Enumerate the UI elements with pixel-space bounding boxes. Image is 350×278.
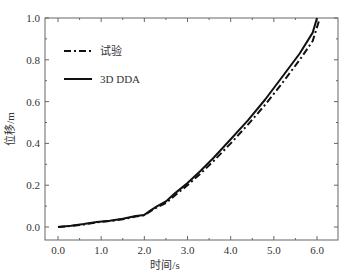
x-tick-label: 0.0 bbox=[51, 244, 65, 256]
legend-label-experiment: 试验 bbox=[100, 44, 122, 57]
x-tick-label: 1.0 bbox=[94, 244, 108, 256]
series-line-experiment bbox=[58, 20, 319, 227]
y-tick-label: 0.6 bbox=[26, 96, 40, 108]
y-axis-label: 位移/m bbox=[3, 112, 16, 146]
x-tick-label: 5.0 bbox=[267, 244, 281, 256]
x-tick-label: 2.0 bbox=[137, 244, 151, 256]
y-tick-label: 1.0 bbox=[26, 12, 40, 24]
x-axis-label: 时间/s bbox=[150, 259, 179, 271]
chart: 0.01.02.03.04.05.06.00.00.20.40.60.81.0 … bbox=[0, 0, 350, 278]
y-tick-label: 0.4 bbox=[26, 137, 40, 149]
legend-label-3d-dda: 3D DDA bbox=[100, 73, 140, 85]
x-tick-label: 4.0 bbox=[224, 244, 238, 256]
y-tick-label: 0.2 bbox=[26, 179, 40, 191]
series-line-3d-dda bbox=[58, 18, 317, 227]
y-tick-label: 0.8 bbox=[26, 54, 40, 66]
x-tick-label: 6.0 bbox=[310, 244, 324, 256]
x-tick-label: 3.0 bbox=[181, 244, 195, 256]
plot-frame bbox=[45, 18, 338, 240]
y-tick-label: 0.0 bbox=[26, 221, 40, 233]
legend: 试验 3D DDA bbox=[64, 44, 140, 85]
